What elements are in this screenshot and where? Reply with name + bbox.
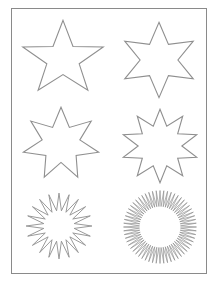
sheet-border-frame [11,8,207,274]
twenty-point-starburst-outline [26,193,92,259]
five-pointed-star [17,17,109,101]
five-pointed-star-outline [23,20,103,90]
sixty-spike-sunburst [122,189,198,265]
six-pointed-star-outline [125,22,194,97]
template-sheet-page [0,0,219,282]
ten-pointed-star [118,106,202,186]
twenty-point-starburst [24,191,94,261]
sixty-spike-sunburst-outline [124,191,197,264]
six-pointed-star [116,19,202,101]
ten-pointed-star-outline [123,109,196,183]
seven-pointed-star-outline [23,107,98,177]
seven-pointed-star [19,104,103,184]
